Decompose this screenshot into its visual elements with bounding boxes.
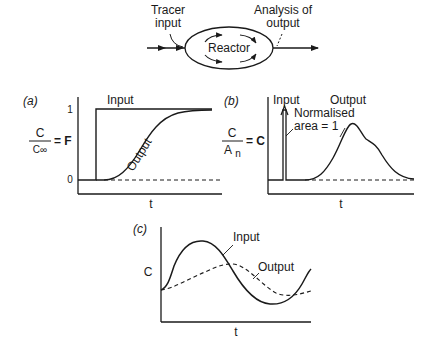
- panel-c-tag: (c): [133, 222, 147, 236]
- panel-b-note-pointer: [286, 129, 293, 136]
- panel-c-input-pointer: [223, 245, 233, 255]
- outlet-arrow-icon: [311, 45, 319, 51]
- panel-c-sinusoidal-response: (c) C Input Output t: [133, 222, 311, 339]
- panel-b-output-label: Output: [330, 93, 367, 107]
- panel-b-input-label: Input: [273, 93, 300, 107]
- panel-c-x-label: t: [234, 325, 238, 339]
- panel-b-y-num: C: [228, 126, 237, 140]
- panel-a-y-den: C∞: [33, 144, 47, 155]
- panel-b-y-den: A: [224, 143, 232, 157]
- panel-c-output-label: Output: [258, 260, 295, 274]
- panel-b-x-label: t: [339, 197, 343, 211]
- panel-b-y-den-sub: n: [235, 148, 241, 159]
- panel-a-x-label: t: [149, 197, 153, 211]
- panel-a-output-curve: [96, 110, 212, 180]
- panel-a-tick-0: 0: [67, 174, 73, 185]
- panel-a-tick-1: 1: [67, 104, 73, 115]
- analysis-label: Analysis of: [254, 3, 313, 17]
- panel-b-tag: (b): [224, 94, 239, 108]
- panel-b-note-2: area = 1: [294, 119, 339, 133]
- panel-c-y-label: C: [144, 265, 153, 279]
- panel-b-note: Normalised: [294, 106, 355, 120]
- mixing-arrow-icon-bottom-left: [205, 55, 222, 62]
- inlet-arrow-icon: [158, 45, 166, 51]
- tracer-input-label: Tracer: [151, 3, 185, 17]
- panel-b-pulse-response: (b) C A n = C Input Output Normalised ar…: [222, 93, 414, 211]
- panel-a-y-num: C: [36, 126, 45, 140]
- mixing-arrow-icon-bottom-right: [240, 54, 256, 62]
- reactor-label: Reactor: [208, 41, 250, 55]
- panel-b-y-eq: = C: [246, 134, 265, 148]
- tracer-input-label-2: input: [155, 16, 182, 30]
- panel-a-y-eq: = F: [54, 134, 72, 148]
- analysis-label-2: output: [266, 16, 300, 30]
- analysis-pointer: [277, 34, 282, 46]
- tracer-response-diagram: Reactor Tracer input Analysis of output …: [0, 0, 433, 347]
- reactor-schematic: Reactor Tracer input Analysis of output: [147, 3, 319, 69]
- panel-a-output-label: Output: [124, 135, 155, 174]
- panel-c-input-label: Input: [233, 230, 260, 244]
- panel-a-step-response: (a) 1 0 C C∞ = F Input Output t: [23, 93, 222, 211]
- panel-a-tag: (a): [23, 94, 38, 108]
- tracer-pointer: [170, 34, 183, 47]
- panel-a-input-label: Input: [107, 93, 134, 107]
